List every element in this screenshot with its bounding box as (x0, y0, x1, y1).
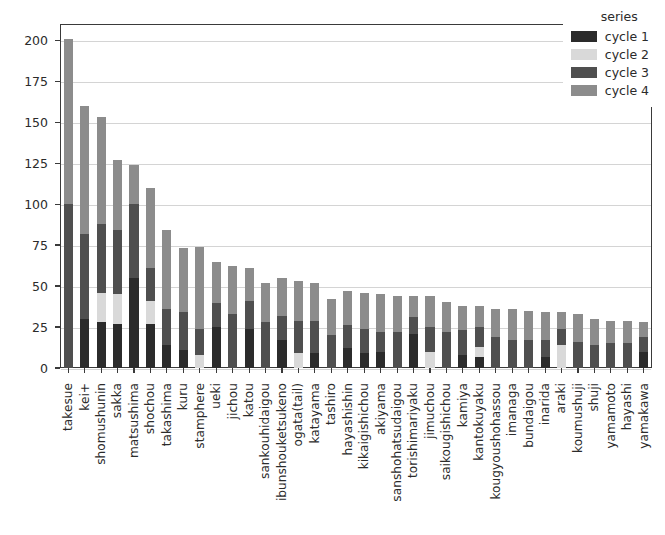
bar-segment[interactable] (80, 234, 89, 319)
bar-segment[interactable] (261, 283, 270, 322)
bar-stack[interactable] (639, 322, 648, 368)
bar-segment[interactable] (212, 303, 221, 328)
bar-segment[interactable] (376, 294, 385, 332)
bar-segment[interactable] (458, 330, 467, 355)
bar-segment[interactable] (195, 329, 204, 355)
bar-segment[interactable] (409, 317, 418, 333)
bar-segment[interactable] (639, 337, 648, 352)
bar-segment[interactable] (97, 224, 106, 293)
bar-segment[interactable] (442, 302, 451, 331)
bar-stack[interactable] (327, 299, 336, 368)
bar-segment[interactable] (425, 296, 434, 327)
bar-segment[interactable] (327, 335, 336, 368)
bar-segment[interactable] (623, 343, 632, 368)
bar-stack[interactable] (277, 278, 286, 368)
bar-segment[interactable] (360, 353, 369, 368)
bar-segment[interactable] (228, 314, 237, 368)
bar-segment[interactable] (508, 309, 517, 340)
bar-segment[interactable] (310, 283, 319, 321)
bar-segment[interactable] (475, 306, 484, 327)
bar-segment[interactable] (327, 299, 336, 335)
bar-stack[interactable] (442, 302, 451, 368)
bar-stack[interactable] (524, 311, 533, 368)
bar-segment[interactable] (97, 117, 106, 223)
bar-segment[interactable] (179, 248, 188, 312)
bar-segment[interactable] (195, 247, 204, 329)
bar-stack[interactable] (491, 309, 500, 368)
bar-segment[interactable] (179, 312, 188, 350)
bar-segment[interactable] (639, 352, 648, 368)
bar-stack[interactable] (228, 266, 237, 368)
bar-stack[interactable] (195, 247, 204, 368)
bar-stack[interactable] (179, 248, 188, 368)
bar-segment[interactable] (409, 334, 418, 368)
bar-segment[interactable] (541, 312, 550, 340)
bar-segment[interactable] (475, 327, 484, 347)
legend-entry[interactable]: cycle 1 (571, 29, 649, 44)
bar-segment[interactable] (343, 325, 352, 348)
bar-stack[interactable] (508, 309, 517, 368)
bar-stack[interactable] (97, 117, 106, 368)
bar-stack[interactable] (541, 312, 550, 368)
bar-segment[interactable] (541, 357, 550, 368)
bar-segment[interactable] (524, 311, 533, 340)
bar-stack[interactable] (573, 314, 582, 368)
bar-segment[interactable] (212, 262, 221, 303)
bar-segment[interactable] (146, 324, 155, 368)
bar-segment[interactable] (360, 293, 369, 329)
bar-segment[interactable] (261, 322, 270, 368)
bar-segment[interactable] (294, 353, 303, 368)
bar-segment[interactable] (376, 332, 385, 352)
bar-segment[interactable] (64, 39, 73, 204)
bar-stack[interactable] (393, 296, 402, 368)
bar-segment[interactable] (393, 296, 402, 332)
bar-segment[interactable] (508, 340, 517, 368)
bar-segment[interactable] (113, 294, 122, 323)
bar-segment[interactable] (639, 322, 648, 337)
bar-segment[interactable] (491, 337, 500, 368)
bar-segment[interactable] (573, 314, 582, 342)
legend-entry[interactable]: cycle 3 (571, 65, 649, 80)
bar-segment[interactable] (310, 353, 319, 368)
bar-segment[interactable] (458, 355, 467, 368)
bar-stack[interactable] (343, 291, 352, 368)
bar-stack[interactable] (64, 39, 73, 368)
bar-segment[interactable] (277, 278, 286, 316)
bar-stack[interactable] (245, 268, 254, 368)
bar-segment[interactable] (277, 316, 286, 341)
bar-segment[interactable] (97, 322, 106, 368)
bar-stack[interactable] (294, 281, 303, 368)
bar-segment[interactable] (557, 345, 566, 368)
bar-segment[interactable] (97, 293, 106, 322)
bar-segment[interactable] (277, 340, 286, 368)
bar-stack[interactable] (409, 296, 418, 368)
bar-segment[interactable] (343, 291, 352, 325)
bar-segment[interactable] (179, 350, 188, 368)
bar-segment[interactable] (557, 312, 566, 328)
bar-segment[interactable] (64, 204, 73, 368)
bar-segment[interactable] (80, 106, 89, 234)
bar-segment[interactable] (557, 329, 566, 345)
bar-segment[interactable] (245, 329, 254, 368)
bar-stack[interactable] (458, 306, 467, 368)
bar-stack[interactable] (623, 321, 632, 368)
bar-segment[interactable] (590, 345, 599, 368)
bar-segment[interactable] (623, 321, 632, 344)
bar-segment[interactable] (146, 188, 155, 268)
bar-stack[interactable] (129, 165, 138, 368)
bar-stack[interactable] (557, 312, 566, 368)
bar-segment[interactable] (590, 319, 599, 345)
bar-segment[interactable] (245, 268, 254, 301)
bar-segment[interactable] (80, 319, 89, 368)
bar-stack[interactable] (425, 296, 434, 368)
bar-segment[interactable] (425, 327, 434, 352)
bar-segment[interactable] (129, 165, 138, 204)
bar-segment[interactable] (475, 347, 484, 357)
bar-segment[interactable] (113, 324, 122, 368)
bar-segment[interactable] (524, 340, 533, 368)
bar-segment[interactable] (606, 321, 615, 344)
bar-segment[interactable] (343, 348, 352, 368)
bar-stack[interactable] (360, 293, 369, 368)
bar-stack[interactable] (80, 106, 89, 368)
bar-segment[interactable] (113, 230, 122, 294)
